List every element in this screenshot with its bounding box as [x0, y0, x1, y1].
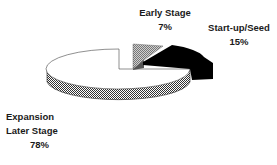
label-startup-seed: Start-up/Seed 15%	[200, 21, 277, 49]
label-early-stage: Early Stage 7%	[134, 6, 196, 34]
label-early-stage-pct: 7%	[134, 20, 196, 34]
label-expansion-line2: Later Stage	[6, 124, 66, 138]
label-expansion-line1: Expansion	[6, 110, 66, 124]
label-startup-seed-pct: 15%	[200, 35, 277, 49]
label-expansion: Expansion Later Stage 78%	[6, 110, 66, 152]
label-early-stage-name: Early Stage	[134, 6, 196, 20]
label-expansion-pct: 78%	[6, 138, 66, 152]
label-startup-seed-name: Start-up/Seed	[200, 21, 277, 35]
